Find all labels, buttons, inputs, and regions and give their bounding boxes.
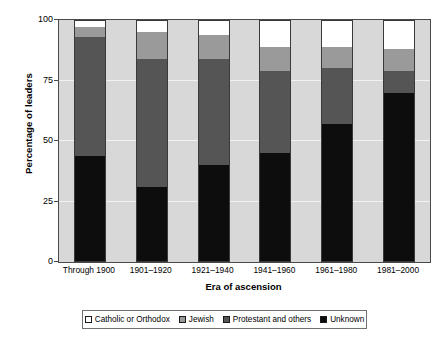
- stacked-bar[interactable]: [383, 20, 415, 262]
- y-axis-title: Percentage of leaders: [23, 34, 34, 214]
- bar-segment[interactable]: [383, 49, 415, 71]
- y-tick-label: 100: [13, 14, 53, 24]
- bar-segment[interactable]: [74, 20, 106, 27]
- bar-segment[interactable]: [259, 71, 291, 153]
- legend-label: Jewish: [189, 315, 214, 324]
- legend-swatch-icon: [320, 316, 327, 323]
- chart-legend: Catholic or OrthodoxJewishProtestant and…: [82, 310, 367, 329]
- bar-segment[interactable]: [74, 156, 106, 262]
- bar-segment[interactable]: [259, 153, 291, 262]
- bar-segment[interactable]: [321, 68, 353, 124]
- stacked-bar[interactable]: [321, 20, 353, 262]
- stacked-bar[interactable]: [198, 20, 230, 262]
- gridline: [59, 201, 430, 202]
- bar-segment[interactable]: [198, 165, 230, 262]
- legend-swatch-icon: [223, 316, 230, 323]
- x-tick-label: 1941–1960: [253, 265, 295, 275]
- legend-label: Catholic or Orthodox: [95, 315, 170, 324]
- legend-label: Unknown: [330, 315, 364, 324]
- bar-segment[interactable]: [383, 20, 415, 49]
- bar-segment[interactable]: [198, 20, 230, 35]
- legend-swatch-icon: [85, 316, 92, 323]
- bar-group: [198, 20, 230, 262]
- stacked-bar[interactable]: [136, 20, 168, 262]
- bar-group: [74, 20, 106, 262]
- legend-label: Protestant and others: [233, 315, 311, 324]
- bar-group: [383, 20, 415, 262]
- bar-group: [321, 20, 353, 262]
- stacked-bar[interactable]: [74, 20, 106, 262]
- legend-item[interactable]: Unknown: [320, 315, 364, 324]
- bar-segment[interactable]: [136, 59, 168, 187]
- stacked-bar[interactable]: [259, 20, 291, 262]
- plot-area: [58, 19, 431, 263]
- y-tick-label: 0: [13, 256, 53, 266]
- bar-segment[interactable]: [74, 27, 106, 37]
- x-tick-label: 1961–1980: [315, 265, 357, 275]
- bar-segment[interactable]: [321, 47, 353, 69]
- legend-swatch-icon: [179, 316, 186, 323]
- legend-item[interactable]: Protestant and others: [223, 315, 311, 324]
- x-tick-label: 1921–1940: [192, 265, 234, 275]
- y-tick-label: 75: [13, 75, 53, 85]
- bar-segment[interactable]: [74, 37, 106, 156]
- gridline: [59, 80, 430, 81]
- bar-segment[interactable]: [136, 20, 168, 32]
- y-tick-label: 50: [13, 135, 53, 145]
- bar-segment[interactable]: [259, 47, 291, 71]
- bar-segment[interactable]: [383, 71, 415, 93]
- y-tick-label: 25: [13, 196, 53, 206]
- bar-segment[interactable]: [259, 20, 291, 47]
- bar-segment[interactable]: [198, 35, 230, 59]
- stacked-bar-chart-figure: Percentage of leaders 0255075100 Through…: [0, 0, 448, 339]
- bar-segment[interactable]: [383, 93, 415, 262]
- legend-item[interactable]: Jewish: [179, 315, 214, 324]
- legend-item[interactable]: Catholic or Orthodox: [85, 315, 170, 324]
- bar-segment[interactable]: [136, 32, 168, 59]
- bar-segment[interactable]: [321, 20, 353, 47]
- bar-segment[interactable]: [136, 187, 168, 262]
- x-tick-label: Through 1900: [63, 265, 115, 275]
- gridline: [59, 140, 430, 141]
- x-tick-label: 1981–2000: [377, 265, 419, 275]
- bar-segment[interactable]: [321, 124, 353, 262]
- bar-segment[interactable]: [198, 59, 230, 165]
- bar-group: [136, 20, 168, 262]
- x-axis-title: Era of ascension: [58, 281, 429, 292]
- x-tick-label: 1901–1920: [130, 265, 172, 275]
- bar-group: [259, 20, 291, 262]
